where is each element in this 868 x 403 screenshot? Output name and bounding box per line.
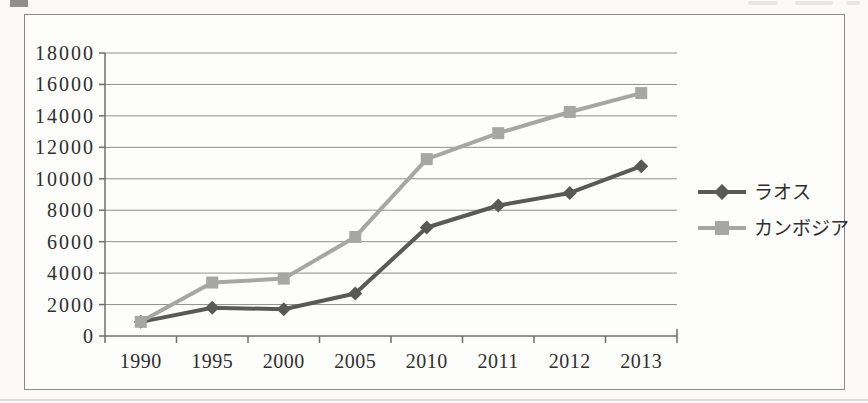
x-axis-tick-label: 1990 [120, 350, 162, 372]
square-marker [278, 273, 290, 285]
x-axis-tick-label: 1995 [191, 350, 233, 372]
x-axis-tick-label: 2012 [549, 350, 591, 372]
x-axis-tick-label: 2000 [263, 350, 305, 372]
y-axis-tick-label: 12000 [35, 136, 95, 158]
y-axis-tick-label: 2000 [47, 294, 95, 316]
y-axis-tick-label: 18000 [35, 42, 95, 64]
diamond-marker [714, 184, 730, 200]
legend-label: カンボジア [754, 218, 849, 239]
square-marker [135, 316, 147, 328]
x-axis-tick-label: 2013 [620, 350, 662, 372]
line-chart: 0200040006000800010000120001400016000180… [0, 0, 868, 403]
x-axis-tick-label: 2005 [334, 350, 376, 372]
square-marker [349, 231, 361, 243]
diamond-marker [205, 301, 219, 315]
square-marker [715, 221, 729, 235]
y-axis-tick-label: 6000 [47, 231, 95, 253]
x-axis-tick-label: 2010 [406, 350, 448, 372]
legend-label: ラオス [754, 182, 811, 203]
legend-item-1: カンボジア [698, 218, 849, 239]
gridlines [105, 53, 677, 305]
square-marker [564, 106, 576, 118]
square-marker [206, 277, 218, 289]
y-axis-tick-label: 10000 [35, 168, 95, 190]
page-rule-line [0, 399, 868, 401]
legend-item-0: ラオス [698, 182, 811, 203]
y-axis-tick-label: 0 [83, 325, 95, 347]
square-marker [421, 153, 433, 165]
legend: ラオスカンボジア [698, 182, 849, 239]
series-0 [134, 159, 649, 329]
square-marker [492, 127, 504, 139]
axes: 0200040006000800010000120001400016000180… [35, 42, 677, 372]
y-axis-tick-label: 4000 [47, 262, 95, 284]
y-axis-tick-label: 16000 [35, 73, 95, 95]
diamond-marker [563, 186, 577, 200]
y-axis-tick-label: 8000 [47, 199, 95, 221]
square-marker [635, 87, 647, 99]
y-axis-tick-label: 14000 [35, 105, 95, 127]
series-1 [135, 87, 648, 328]
diamond-marker [634, 159, 648, 173]
x-axis-tick-label: 2011 [478, 350, 519, 372]
